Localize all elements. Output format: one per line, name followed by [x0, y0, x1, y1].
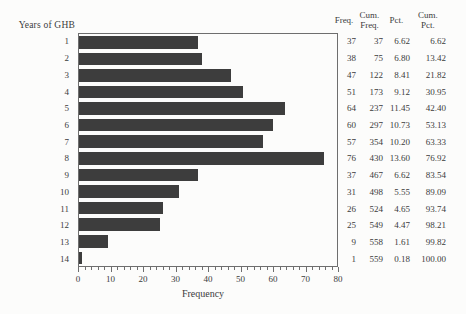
bar-row — [79, 250, 337, 267]
x-tick-label: 40 — [204, 274, 213, 284]
x-tick-label: 60 — [269, 274, 278, 284]
x-major-tick — [78, 267, 79, 272]
x-minor-tick — [215, 267, 216, 270]
x-minor-tick — [332, 267, 333, 270]
bar-category-5 — [79, 102, 285, 115]
stat-cell: 76.92 — [410, 153, 446, 163]
bar-row — [79, 67, 337, 84]
stat-table-row: 37376.626.62 — [332, 33, 446, 50]
stat-cell: 237 — [356, 103, 383, 113]
stat-cell: 549 — [356, 220, 383, 230]
x-minor-tick — [228, 267, 229, 270]
stat-cell: 4.47 — [383, 220, 410, 230]
bar-row — [79, 84, 337, 101]
stat-cell: 31 — [332, 187, 356, 197]
stat-cell: 42.40 — [410, 103, 446, 113]
y-category-label: 13 — [0, 234, 74, 251]
x-minor-tick — [247, 267, 248, 270]
stat-table-row: 265244.6593.74 — [332, 200, 446, 217]
stat-table-row: 511739.1230.95 — [332, 83, 446, 100]
x-minor-tick — [234, 267, 235, 270]
x-minor-tick — [325, 267, 326, 270]
stat-cell: 559 — [356, 254, 383, 264]
bar-category-10 — [79, 185, 179, 198]
x-minor-tick — [137, 267, 138, 270]
stat-table-row: 255494.4798.21 — [332, 217, 446, 234]
bar-category-11 — [79, 202, 163, 215]
stat-cell: 8.41 — [383, 70, 410, 80]
stat-cell: 76 — [332, 153, 356, 163]
bar-category-4 — [79, 86, 243, 99]
x-minor-tick — [117, 267, 118, 270]
x-major-tick — [143, 267, 144, 272]
x-minor-tick — [293, 267, 294, 270]
stat-cell: 430 — [356, 153, 383, 163]
stat-table-row: 6423711.4542.40 — [332, 100, 446, 117]
bar-row — [79, 233, 337, 250]
stat-cell: 467 — [356, 170, 383, 180]
x-major-tick — [176, 267, 177, 272]
stat-table-row: 95581.6199.82 — [332, 234, 446, 251]
bar-category-3 — [79, 69, 231, 82]
bar-row — [79, 216, 337, 233]
stat-cell: 37 — [332, 36, 356, 46]
bar-category-12 — [79, 218, 160, 231]
stat-cell: 89.09 — [410, 187, 446, 197]
x-minor-tick — [182, 267, 183, 270]
bar-row — [79, 183, 337, 200]
x-minor-tick — [98, 267, 99, 270]
stat-cell: 11.45 — [383, 103, 410, 113]
stat-cell: 6.62 — [383, 36, 410, 46]
x-tick-label: 80 — [334, 274, 343, 284]
stat-cell: 354 — [356, 137, 383, 147]
x-axis-label: Frequency — [78, 288, 328, 299]
stat-cell: 6.62 — [383, 170, 410, 180]
x-minor-tick — [169, 267, 170, 270]
stat-cell: 558 — [356, 237, 383, 247]
stat-cell: 30.95 — [410, 87, 446, 97]
bar-category-2 — [79, 53, 202, 66]
stat-cell: 64 — [332, 103, 356, 113]
y-axis-category-labels: 1234567891011121314 — [0, 33, 74, 267]
x-major-tick — [111, 267, 112, 272]
stat-cell: 10.20 — [383, 137, 410, 147]
x-tick-label: 70 — [301, 274, 310, 284]
x-minor-tick — [260, 267, 261, 270]
x-minor-tick — [299, 267, 300, 270]
y-category-label: 14 — [0, 250, 74, 267]
stat-column-header: Freq. — [332, 16, 356, 26]
stat-cell: 51 — [332, 87, 356, 97]
x-minor-tick — [202, 267, 203, 270]
stat-cell: 9 — [332, 237, 356, 247]
y-axis-title: Years of GHB — [0, 20, 75, 30]
stat-table-row: 5735410.2063.33 — [332, 133, 446, 150]
stat-cell: 75 — [356, 53, 383, 63]
x-minor-tick — [124, 267, 125, 270]
y-category-label: 1 — [0, 33, 74, 50]
x-minor-tick — [312, 267, 313, 270]
stat-column-header: Pct. — [383, 16, 410, 26]
bar-row — [79, 167, 337, 184]
y-category-label: 11 — [0, 200, 74, 217]
stat-cell: 38 — [332, 53, 356, 63]
stat-table-row: 6029710.7353.13 — [332, 117, 446, 134]
stat-cell: 524 — [356, 204, 383, 214]
y-category-label: 5 — [0, 100, 74, 117]
bar-row — [79, 51, 337, 68]
x-tick-label: 20 — [139, 274, 148, 284]
x-major-tick — [208, 267, 209, 272]
bar-row — [79, 133, 337, 150]
x-minor-tick — [130, 267, 131, 270]
bar-row — [79, 100, 337, 117]
x-tick-label: 30 — [171, 274, 180, 284]
x-minor-tick — [85, 267, 86, 270]
stat-table-row: 314985.5589.09 — [332, 183, 446, 200]
x-minor-tick — [163, 267, 164, 270]
stat-cell: 297 — [356, 120, 383, 130]
x-tick-label: 50 — [236, 274, 245, 284]
stat-cell: 93.74 — [410, 204, 446, 214]
y-category-label: 12 — [0, 217, 74, 234]
x-minor-tick — [286, 267, 287, 270]
x-minor-tick — [91, 267, 92, 270]
x-minor-tick — [195, 267, 196, 270]
